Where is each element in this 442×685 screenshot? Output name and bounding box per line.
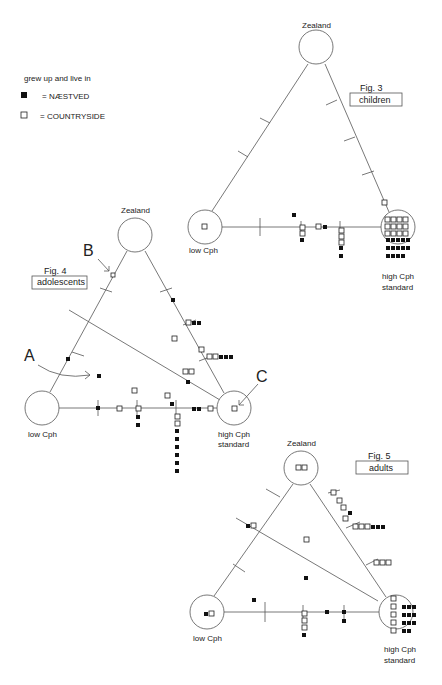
group-label: children <box>359 95 391 105</box>
vertex-high-cph: high Cph <box>382 272 414 281</box>
fig-label: Fig. 3 <box>360 83 383 93</box>
legend-item-countryside: = COUNTRYSIDE <box>40 112 105 121</box>
vertex-low-cph: low Cph <box>193 634 222 643</box>
zealand-circle <box>299 30 333 64</box>
fig-label: Fig. 4 <box>44 266 67 276</box>
vertex-zealand: Zealand <box>302 21 331 30</box>
filled-square-icon <box>21 92 27 98</box>
vertex-low-cph: low Cph <box>28 430 57 439</box>
legend-item-naestved: = NÆSTVED <box>42 92 90 101</box>
figure-adolescents: Zealand low Cph high Cph standard Fig. 4… <box>24 206 268 473</box>
figure-adults: Zealand low Cph high Cph standard Fig. 5… <box>190 439 416 665</box>
group-label: adults <box>369 463 394 473</box>
annotation-a: A <box>24 347 35 364</box>
zealand-circle <box>118 218 152 252</box>
group-label: adolescents <box>37 277 86 287</box>
vertex-standard: standard <box>382 283 413 292</box>
annotation-b: B <box>83 242 94 259</box>
vertex-low-cph: low Cph <box>189 246 218 255</box>
vertex-zealand: Zealand <box>121 206 150 215</box>
vertex-standard: standard <box>384 656 415 665</box>
arrow-b-icon <box>98 259 109 271</box>
vertex-high-cph: high Cph <box>384 645 416 654</box>
low-cph-circle <box>25 391 59 425</box>
fig-label: Fig. 5 <box>368 451 391 461</box>
triangle-diagrams: grew up and live in = NÆSTVED = COUNTRYS… <box>0 0 442 685</box>
open-square-icon <box>21 112 27 118</box>
annotation-c: C <box>256 368 268 385</box>
vertex-zealand: Zealand <box>287 439 316 448</box>
figure-children: Zealand low Cph high Cph standard Fig. 3… <box>188 21 415 292</box>
vertex-standard: standard <box>218 440 249 449</box>
legend-title: grew up and live in <box>24 74 91 83</box>
legend: grew up and live in = NÆSTVED = COUNTRYS… <box>21 74 105 121</box>
vertex-high-cph: high Cph <box>218 430 250 439</box>
